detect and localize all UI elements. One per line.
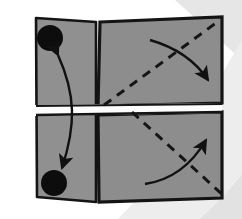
bottom-panel[interactable] <box>98 112 222 202</box>
corner-dot-bottom <box>41 170 67 196</box>
corner-dot-top <box>37 25 63 51</box>
diagram-canvas: Paper folding diagram: two hinged gray p… <box>0 0 242 219</box>
origami-fold-diagram: Paper folding diagram: two hinged gray p… <box>0 0 242 219</box>
top-panel[interactable] <box>98 17 222 106</box>
